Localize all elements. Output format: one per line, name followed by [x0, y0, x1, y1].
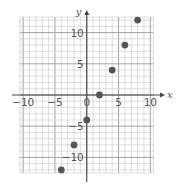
data-point [96, 92, 103, 99]
x-tick-label: 10 [144, 96, 157, 108]
y-tick-label: 10 [70, 27, 83, 39]
x-tick-label: 0 [83, 96, 90, 108]
scatter-plot: −10−50510−10−5510 x y [0, 0, 178, 188]
y-axis-label: y [75, 6, 82, 17]
data-point [58, 166, 65, 173]
x-tick-label: −10 [12, 96, 34, 108]
x-tick-label: −5 [47, 96, 62, 108]
x-tick-label: 5 [115, 96, 122, 108]
data-point [109, 67, 116, 74]
y-tick-label: −5 [68, 120, 83, 132]
data-point [71, 142, 78, 149]
data-point [121, 42, 128, 49]
data-point [134, 17, 141, 24]
data-point [83, 117, 90, 124]
y-tick-label: −10 [62, 151, 84, 163]
x-axis-arrow-icon [160, 93, 165, 98]
y-tick-label: 5 [77, 58, 84, 70]
x-axis-label: x [167, 89, 173, 100]
y-axis-arrow-icon [84, 10, 89, 15]
